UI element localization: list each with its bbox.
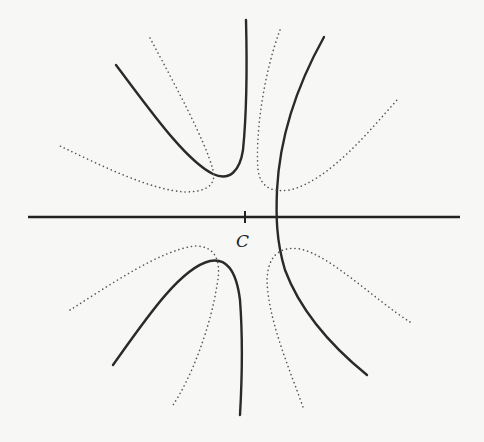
right-solid-curve: [277, 37, 367, 375]
upper-left-solid-curve: [116, 20, 247, 177]
upper-left-dotted-curve: [60, 38, 214, 192]
lower-right-dotted-curve: [267, 248, 410, 407]
lower-left-solid-curve: [113, 260, 242, 415]
hyperbolic-curves-diagram: C: [0, 0, 484, 442]
point-c-label: C: [236, 231, 249, 251]
lower-left-dotted-curve: [70, 246, 219, 405]
